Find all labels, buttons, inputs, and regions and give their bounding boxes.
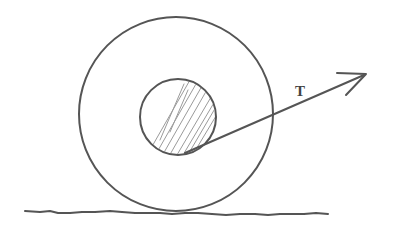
outer-wheel [79,17,273,211]
spool-diagram [0,0,396,235]
tension-label: T [295,84,305,99]
axle-hatching [150,80,222,160]
